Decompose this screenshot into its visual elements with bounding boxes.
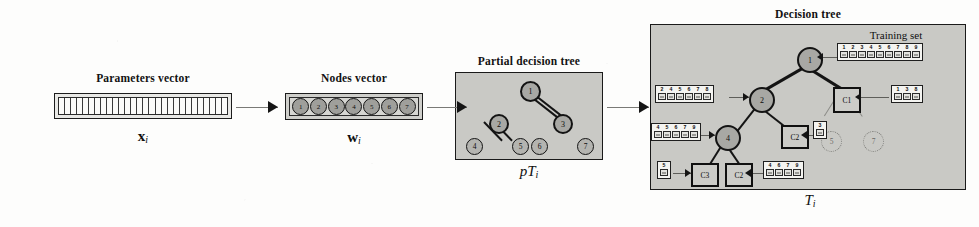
set-item-glyph [903, 51, 911, 58]
nodes-vector-title: Nodes vector [283, 72, 425, 84]
parameter-cell [222, 98, 227, 114]
set-item-glyph [672, 131, 680, 138]
arrowhead-n2-set [743, 93, 749, 101]
set-item: 2 [658, 87, 666, 100]
set-item-glyph [660, 169, 668, 176]
parameters-vector-caption-subscript: i [145, 134, 148, 145]
set-item-glyph [766, 169, 774, 176]
set-item: 1 [894, 87, 902, 100]
set-item-glyph [885, 51, 893, 58]
partial-tree-caption-symbol: pT [520, 163, 536, 179]
set-item: 7 [784, 163, 792, 176]
ptree-node-4[interactable]: 4 [466, 138, 483, 155]
set-item: 3 [858, 45, 866, 58]
ptree-node-2[interactable]: 2 [489, 114, 509, 134]
nodes-vector-cells: 1234567 [289, 97, 419, 116]
set-item: 8 [912, 87, 920, 100]
decision-tree-caption-symbol: T [804, 192, 812, 208]
nodes-vector-node[interactable]: 2 [310, 98, 327, 115]
parameters-vector-title: Parameters vector [54, 72, 232, 84]
set-class-c1: 138 [891, 85, 923, 103]
set-item: 7 [894, 45, 902, 58]
set-item: 6 [775, 163, 783, 176]
arrowhead-c1-set [855, 93, 861, 101]
ptree-node-5[interactable]: 5 [512, 138, 529, 155]
set-item: 5 [660, 163, 668, 176]
decision-tree-caption-subscript: i [813, 198, 816, 209]
arrowhead-root-set [817, 53, 823, 61]
parameters-vector-caption: xi [54, 128, 232, 145]
nodes-vector-caption: wi [283, 129, 425, 146]
set-item: 6 [885, 45, 893, 58]
set-item-glyph [858, 51, 866, 58]
set-node-4: 45679 [651, 123, 701, 141]
ptree-node-6[interactable]: 6 [531, 138, 548, 155]
set-item: 9 [793, 163, 801, 176]
set-row: 138 [894, 87, 920, 100]
partial-tree-caption-subscript: i [536, 169, 539, 180]
decision-tree-panel: Training set 1 2 4 C1 C2 C3 C2 5 7 [650, 24, 966, 190]
nodes-vector-node[interactable]: 1 [292, 98, 309, 115]
nodes-vector-node[interactable]: 5 [363, 98, 380, 115]
set-item: 4 [654, 125, 662, 138]
set-item: 9 [690, 125, 698, 138]
set-class-c3: 5 [657, 161, 671, 179]
arrow-params-to-nodes [236, 100, 278, 114]
nodes-vector-node[interactable]: 4 [345, 98, 362, 115]
set-row: 245678 [658, 87, 711, 100]
dtree-node-4[interactable]: 4 [715, 125, 741, 151]
set-item-glyph [690, 131, 698, 138]
dtree-class-c3[interactable]: C3 [691, 163, 719, 187]
set-item: 7 [694, 87, 702, 100]
arrowhead-c3-set [685, 169, 691, 177]
set-item: 4 [667, 87, 675, 100]
set-class-c2-lower: 4679 [763, 161, 804, 179]
figure-canvas: Parameters vector xi Nodes vector 123456… [0, 0, 979, 227]
set-item-glyph [867, 51, 875, 58]
set-item-glyph [784, 169, 792, 176]
set-item: 6 [685, 87, 693, 100]
set-item: 9 [912, 45, 920, 58]
set-item-glyph [894, 51, 902, 58]
ptree-node-3[interactable]: 3 [553, 114, 573, 134]
arrowhead-c2a-set [801, 131, 807, 139]
ptree-node-root[interactable]: 1 [520, 81, 541, 102]
dtree-node-2[interactable]: 2 [749, 87, 775, 113]
set-item-glyph [894, 93, 902, 100]
nodes-vector-caption-symbol: w [347, 129, 358, 145]
set-item-glyph [654, 131, 662, 138]
set-node-2: 245678 [655, 85, 714, 103]
set-item-glyph [681, 131, 689, 138]
parameters-vector-box [54, 93, 232, 119]
nodes-vector-node[interactable]: 3 [328, 98, 345, 115]
nodes-vector-box: 1234567 [285, 93, 423, 120]
set-item: 3 [903, 87, 911, 100]
set-item-glyph [658, 93, 666, 100]
set-item-glyph [694, 93, 702, 100]
set-item-glyph [912, 51, 920, 58]
ptree-node-7[interactable]: 7 [577, 138, 594, 155]
set-row: 45679 [654, 125, 698, 138]
parameters-vector-cells [58, 97, 228, 115]
set-item: 5 [663, 125, 671, 138]
set-item: 6 [672, 125, 680, 138]
set-item: 2 [849, 45, 857, 58]
partial-tree-title: Partial decision tree [443, 55, 615, 67]
set-item-glyph [775, 169, 783, 176]
partial-tree-caption: pTi [443, 163, 615, 180]
set-item-glyph [703, 93, 711, 100]
arrow-partial-to-decision-tree [607, 100, 649, 114]
set-row: 123456789 [840, 45, 920, 58]
nodes-vector-node[interactable]: 7 [399, 98, 416, 115]
set-item-glyph [816, 129, 824, 136]
set-item: 4 [867, 45, 875, 58]
set-item: 8 [903, 45, 911, 58]
set-item-glyph [685, 93, 693, 100]
set-item-glyph [793, 169, 801, 176]
set-item: 8 [703, 87, 711, 100]
nodes-vector-node[interactable]: 6 [381, 98, 398, 115]
arrow-nodes-to-partial-tree [427, 100, 467, 114]
dtree-pruned-node-7: 7 [863, 131, 884, 152]
set-item: 5 [676, 87, 684, 100]
set-item-glyph [849, 51, 857, 58]
